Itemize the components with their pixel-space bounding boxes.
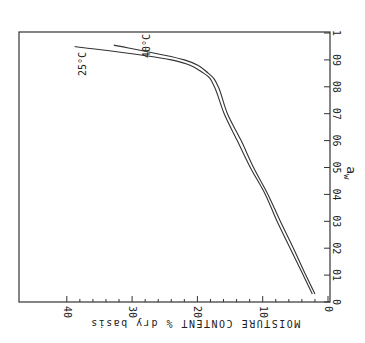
moisture-tick-label: 40 bbox=[62, 306, 73, 318]
curves bbox=[75, 45, 315, 294]
aw-tick-label: 01 bbox=[331, 269, 342, 281]
aw-axis: 00102030405060708091aw bbox=[324, 30, 359, 305]
label-25c: 25°C bbox=[77, 52, 88, 76]
curve-40c bbox=[114, 45, 315, 294]
moisture-axis-title: MOISTURE CONTENT % dry basis bbox=[90, 318, 301, 329]
aw-tick-label: 1 bbox=[331, 30, 342, 36]
moisture-axis: 010203040MOISTURE CONTENT % dry basis bbox=[62, 296, 334, 329]
aw-tick-label: 08 bbox=[331, 81, 342, 93]
aw-tick-label: 0 bbox=[331, 299, 342, 305]
moisture-tick-label: 0 bbox=[323, 306, 334, 312]
aw-tick-label: 06 bbox=[331, 135, 342, 147]
aw-tick-label: 04 bbox=[331, 188, 342, 200]
moisture-tick-label: 20 bbox=[192, 306, 203, 318]
aw-tick-label: 02 bbox=[331, 242, 342, 254]
curve-25c bbox=[75, 46, 313, 293]
label-40c: 40°C bbox=[141, 34, 152, 58]
plot-frame bbox=[19, 32, 330, 302]
aw-axis-title: aw bbox=[342, 166, 359, 180]
moisture-tick-label: 30 bbox=[127, 306, 138, 318]
moisture-tick-label: 10 bbox=[258, 306, 269, 318]
aw-tick-label: 03 bbox=[331, 215, 342, 227]
aw-tick-label: 07 bbox=[331, 108, 342, 120]
curve-labels: 25°C40°C bbox=[77, 34, 152, 76]
sorption-isotherm-chart: 00102030405060708091aw 010203040MOISTURE… bbox=[0, 0, 365, 343]
aw-tick-label: 09 bbox=[331, 54, 342, 66]
aw-tick-label: 05 bbox=[331, 161, 342, 173]
